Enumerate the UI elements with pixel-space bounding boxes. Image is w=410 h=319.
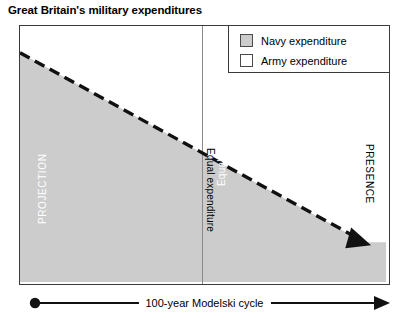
x-axis: 100-year Modelski cycle [19, 292, 390, 314]
equal-expenditure-label-top: Equal expenditure [205, 148, 216, 232]
legend-item-navy[interactable]: Navy expenditure [240, 31, 389, 50]
navy-swatch-icon [240, 34, 253, 47]
x-axis-label-text: 100-year Modelski cycle [139, 297, 271, 309]
legend: Navy expenditure Army expenditure [228, 25, 390, 73]
projection-phase-label: PROJECTION [37, 154, 48, 224]
chart-container: Great Britain's military expenditures PR… [0, 0, 410, 319]
equal-expenditure-label-bottom: Equal expenditure [216, 102, 227, 186]
equal-expenditure-divider [202, 26, 203, 284]
x-axis-label: 100-year Modelski cycle [19, 292, 390, 314]
legend-label-navy: Navy expenditure [261, 35, 347, 47]
army-swatch-icon [240, 54, 253, 67]
page-title: Great Britain's military expenditures [8, 4, 202, 16]
presence-phase-label: PRESENCE [364, 144, 375, 204]
legend-item-army[interactable]: Army expenditure [240, 51, 389, 70]
legend-label-army: Army expenditure [261, 55, 347, 67]
